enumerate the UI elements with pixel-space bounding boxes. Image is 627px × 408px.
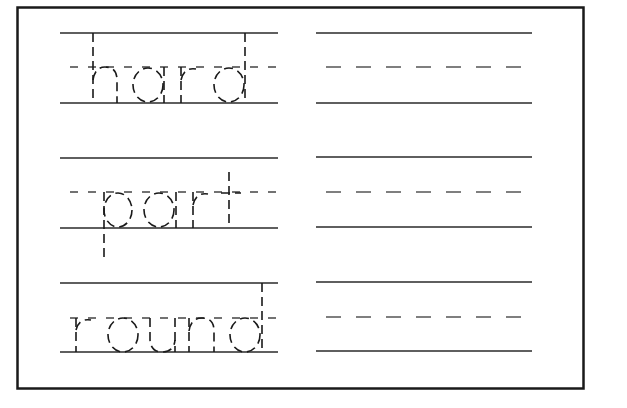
worksheet-border (18, 8, 584, 389)
traced-word-part (104, 172, 241, 262)
traced-word-hard (93, 33, 245, 103)
row-hard: hard (0, 0, 532, 103)
practice-lines[interactable] (316, 157, 532, 227)
practice-lines[interactable] (316, 282, 532, 351)
trace-guide-lines (60, 158, 278, 228)
row-part: part (0, 0, 532, 262)
practice-lines[interactable] (316, 33, 532, 103)
handwriting-worksheet: hard (0, 0, 627, 408)
row-round: round (0, 0, 532, 352)
